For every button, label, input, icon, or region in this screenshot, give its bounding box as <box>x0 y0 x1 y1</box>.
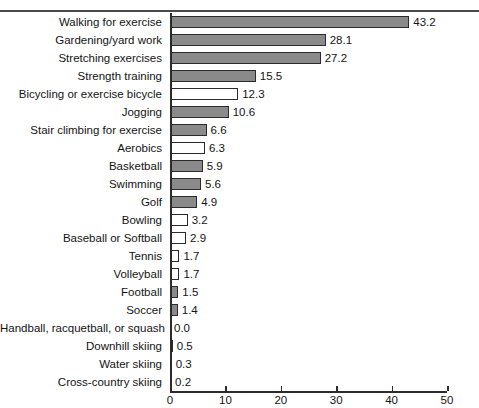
bar-track: 15.5 <box>170 67 479 85</box>
category-label: Jogging <box>0 103 162 121</box>
header-divider <box>0 10 479 12</box>
category-label: Golf <box>0 193 162 211</box>
zero-baseline <box>170 13 172 391</box>
x-axis-tick-label: 0 <box>150 394 190 406</box>
category-label: Gardening/yard work <box>0 31 162 49</box>
bar-track: 6.6 <box>170 121 479 139</box>
bar <box>170 196 197 208</box>
category-label: Water skiing <box>0 355 162 373</box>
chart-plot-area: Walking for exercise43.2Gardening/yard w… <box>0 13 479 391</box>
chart-row: Water skiing0.3 <box>0 355 479 373</box>
bar <box>170 106 229 118</box>
x-axis-line <box>170 391 447 393</box>
category-label: Bicycling or exercise bicycle <box>0 85 162 103</box>
x-axis-tick <box>447 386 449 391</box>
chart-row: Golf4.9 <box>0 193 479 211</box>
bar <box>170 214 188 226</box>
bar-track: 3.2 <box>170 211 479 229</box>
category-label: Strength training <box>0 67 162 85</box>
bar-value-label: 1.5 <box>182 283 198 301</box>
category-label: Cross-country skiing <box>0 373 162 391</box>
bar-value-label: 0.3 <box>176 355 192 373</box>
chart-row: Tennis1.7 <box>0 247 479 265</box>
bar-value-label: 1.7 <box>183 265 199 283</box>
chart-row: Stretching exercises27.2 <box>0 49 479 67</box>
bar-value-label: 15.5 <box>260 67 282 85</box>
bar-track: 2.9 <box>170 229 479 247</box>
category-label: Handball, racquetball, or squash <box>0 319 162 337</box>
bar-track: 27.2 <box>170 49 479 67</box>
category-label: Soccer <box>0 301 162 319</box>
bar <box>170 142 205 154</box>
category-label: Football <box>0 283 162 301</box>
bar <box>170 16 409 28</box>
bar-value-label: 0.5 <box>177 337 193 355</box>
chart-row: Basketball5.9 <box>0 157 479 175</box>
category-label: Aerobics <box>0 139 162 157</box>
chart-row: Football1.5 <box>0 283 479 301</box>
bar <box>170 88 238 100</box>
bar-value-label: 0.0 <box>174 319 190 337</box>
category-label: Baseball or Softball <box>0 229 162 247</box>
category-label: Bowling <box>0 211 162 229</box>
x-axis-tick <box>281 386 283 391</box>
bar-value-label: 12.3 <box>242 85 264 103</box>
chart-row: Aerobics6.3 <box>0 139 479 157</box>
chart-row: Jogging10.6 <box>0 103 479 121</box>
bar-value-label: 3.2 <box>192 211 208 229</box>
category-label: Tennis <box>0 247 162 265</box>
bar <box>170 70 256 82</box>
x-axis-tick-label: 10 <box>205 394 245 406</box>
chart-row: Walking for exercise43.2 <box>0 13 479 31</box>
chart-row: Handball, racquetball, or squash0.0 <box>0 319 479 337</box>
bar <box>170 52 321 64</box>
category-label: Stretching exercises <box>0 49 162 67</box>
x-axis-tick-label: 40 <box>372 394 412 406</box>
bar-value-label: 27.2 <box>325 49 347 67</box>
x-axis-tick-label: 50 <box>427 394 467 406</box>
x-axis-tick <box>225 386 227 391</box>
x-axis-tick-label: 20 <box>261 394 301 406</box>
bar-value-label: 1.7 <box>183 247 199 265</box>
bar <box>170 34 326 46</box>
bar-value-label: 1.4 <box>182 301 198 319</box>
bar-track: 12.3 <box>170 85 479 103</box>
bar-track: 4.9 <box>170 193 479 211</box>
bar-value-label: 4.9 <box>201 193 217 211</box>
bar-track: 5.9 <box>170 157 479 175</box>
chart-row: Bicycling or exercise bicycle12.3 <box>0 85 479 103</box>
x-axis-tick <box>336 386 338 391</box>
chart-row: Baseball or Softball2.9 <box>0 229 479 247</box>
chart-row: Cross-country skiing0.2 <box>0 373 479 391</box>
bar <box>170 232 186 244</box>
category-label: Basketball <box>0 157 162 175</box>
bar-value-label: 0.2 <box>175 373 191 391</box>
bar-value-label: 10.6 <box>233 103 255 121</box>
chart-row: Strength training15.5 <box>0 67 479 85</box>
bar-value-label: 28.1 <box>330 31 352 49</box>
bar-value-label: 43.2 <box>413 13 435 31</box>
bar-track: 0.5 <box>170 337 479 355</box>
bar-value-label: 5.6 <box>205 175 221 193</box>
bar-track: 10.6 <box>170 103 479 121</box>
chart-row: Stair climbing for exercise6.6 <box>0 121 479 139</box>
chart-row: Swimming5.6 <box>0 175 479 193</box>
bar <box>170 124 207 136</box>
chart-row: Soccer1.4 <box>0 301 479 319</box>
chart-row: Gardening/yard work28.1 <box>0 31 479 49</box>
bar-track: 43.2 <box>170 13 479 31</box>
chart-row: Bowling3.2 <box>0 211 479 229</box>
category-label: Swimming <box>0 175 162 193</box>
bar-value-label: 5.9 <box>207 157 223 175</box>
bar-track: 1.4 <box>170 301 479 319</box>
bar-track: 1.7 <box>170 265 479 283</box>
bar-track: 5.6 <box>170 175 479 193</box>
x-axis-tick <box>392 386 394 391</box>
bar-track: 1.5 <box>170 283 479 301</box>
x-axis-tick-label: 30 <box>316 394 356 406</box>
category-label: Downhill skiing <box>0 337 162 355</box>
bar-track: 28.1 <box>170 31 479 49</box>
bar <box>170 160 203 172</box>
bar-track: 1.7 <box>170 247 479 265</box>
